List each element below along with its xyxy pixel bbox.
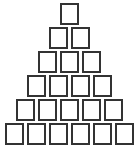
- box-pyramid: [0, 0, 139, 148]
- pyramid-box: [104, 99, 123, 121]
- pyramid-box: [71, 123, 90, 145]
- pyramid-box: [60, 51, 79, 73]
- pyramid-box: [93, 75, 112, 97]
- pyramid-box: [82, 99, 101, 121]
- pyramid-box: [5, 123, 24, 145]
- pyramid-box: [49, 123, 68, 145]
- pyramid-box: [49, 27, 68, 49]
- pyramid-box: [27, 123, 46, 145]
- pyramid-box: [38, 99, 57, 121]
- pyramid-box: [71, 75, 90, 97]
- pyramid-box: [27, 75, 46, 97]
- pyramid-box: [60, 3, 79, 25]
- pyramid-box: [93, 123, 112, 145]
- pyramid-box: [115, 123, 134, 145]
- pyramid-box: [16, 99, 35, 121]
- pyramid-box: [38, 51, 57, 73]
- pyramid-box: [82, 51, 101, 73]
- pyramid-box: [49, 75, 68, 97]
- pyramid-box: [71, 27, 90, 49]
- pyramid-box: [60, 99, 79, 121]
